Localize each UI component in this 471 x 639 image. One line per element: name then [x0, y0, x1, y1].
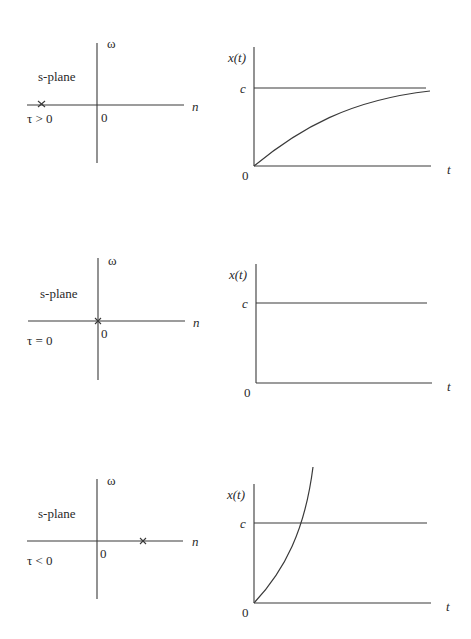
- origin-label: 0: [100, 547, 107, 560]
- response-origin-label: 0: [242, 169, 249, 182]
- omega-label: ω: [107, 37, 116, 50]
- s-plane-2: [28, 258, 185, 380]
- level-c-label: c: [242, 297, 248, 310]
- response-curve: [254, 467, 313, 603]
- t-axis-label: t: [447, 380, 451, 393]
- diagram-canvas: [0, 0, 471, 639]
- y-axis-label: x(t): [229, 268, 247, 281]
- origin-label: 0: [101, 327, 108, 340]
- response-plot-3: [254, 467, 431, 603]
- response-plot-2: [256, 264, 432, 383]
- y-axis-label: x(t): [228, 51, 246, 64]
- omega-label: ω: [108, 254, 117, 267]
- response-curve: [254, 91, 430, 166]
- condition-label: τ > 0: [27, 112, 53, 125]
- origin-label: 0: [101, 111, 108, 124]
- response-origin-label: 0: [244, 386, 251, 399]
- real-axis-label: n: [192, 100, 199, 113]
- response-plot-1: [254, 47, 431, 166]
- s-plane-title: s-plane: [40, 287, 78, 300]
- y-axis-label: x(t): [227, 488, 245, 501]
- condition-label: τ = 0: [27, 334, 53, 347]
- omega-label: ω: [107, 474, 116, 487]
- real-axis-label: n: [193, 316, 200, 329]
- response-origin-label: 0: [242, 606, 249, 619]
- real-axis-label: n: [192, 535, 199, 548]
- level-c-label: c: [240, 82, 246, 95]
- condition-label: τ < 0: [27, 554, 53, 567]
- s-plane-3: [27, 479, 183, 599]
- s-plane-title: s-plane: [38, 70, 76, 83]
- t-axis-label: t: [446, 600, 450, 613]
- t-axis-label: t: [447, 163, 451, 176]
- level-c-label: c: [240, 517, 246, 530]
- pole-marker-icon: [38, 101, 45, 107]
- s-plane-1: [27, 43, 184, 163]
- s-plane-title: s-plane: [38, 507, 76, 520]
